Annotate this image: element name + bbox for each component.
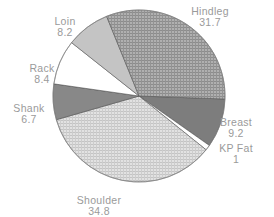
label-breast: Breast 9.2 (211, 117, 261, 139)
label-shank: Shank 6.7 (4, 103, 54, 125)
label-rack: Rack 8.4 (17, 63, 67, 85)
label-hindleg: Hindleg 31.7 (185, 6, 235, 28)
label-rack-value: 8.4 (17, 74, 67, 85)
label-loin: Loin 8.2 (40, 16, 90, 38)
label-kp-fat-value: 1 (211, 154, 261, 165)
label-loin-value: 8.2 (40, 27, 90, 38)
label-hindleg-value: 31.7 (185, 17, 235, 28)
label-kp-fat: KP Fat 1 (211, 143, 261, 165)
label-shank-value: 6.7 (4, 114, 54, 125)
label-shoulder-value: 34.8 (74, 206, 124, 217)
label-breast-value: 9.2 (211, 128, 261, 139)
label-shoulder: Shoulder 34.8 (74, 195, 124, 217)
